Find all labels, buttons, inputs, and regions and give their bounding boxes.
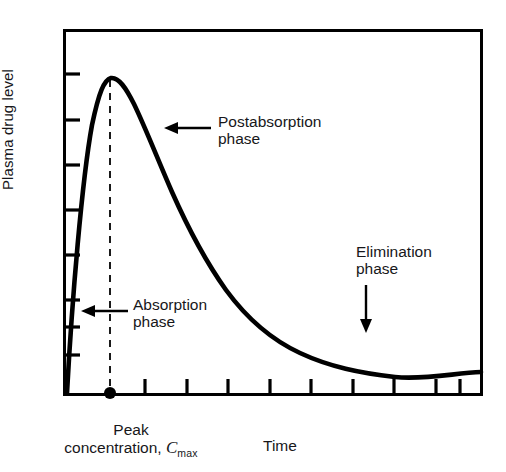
plot-canvas xyxy=(0,0,506,472)
peak-caption-line2: concentration, Cmax xyxy=(22,438,240,460)
annotation-postabsorption-phase: Postabsorption phase xyxy=(218,113,321,148)
annotation-elimination-line1: Elimination xyxy=(356,243,432,260)
cmax-subscript: max xyxy=(177,447,197,459)
annotation-elimination-phase: Elimination phase xyxy=(356,243,432,278)
annotation-postabsorption-line1: Postabsorption xyxy=(218,113,321,130)
peak-caption-prefix: concentration, xyxy=(64,439,166,456)
pharmacokinetics-figure: Plasma drug level Time Postabsorption ph… xyxy=(0,0,506,472)
cmax-peak-dot xyxy=(104,387,116,399)
annotation-postabsorption-line2: phase xyxy=(218,130,260,147)
x-axis-label: Time xyxy=(263,437,297,454)
annotation-absorption-line2: phase xyxy=(133,313,175,330)
y-axis-label: Plasma drug level xyxy=(0,30,17,190)
annotation-elimination-line2: phase xyxy=(356,260,398,277)
peak-caption-line1: Peak xyxy=(22,421,240,438)
annotation-absorption-line1: Absorption xyxy=(133,296,207,313)
cmax-symbol: C xyxy=(166,438,177,457)
annotation-absorption-phase: Absorption phase xyxy=(133,296,207,331)
peak-concentration-caption: Peak concentration, Cmax xyxy=(22,421,240,460)
